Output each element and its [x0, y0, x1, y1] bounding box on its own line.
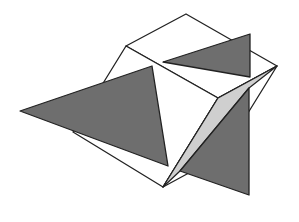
- diagram-canvas: [0, 0, 299, 222]
- left-triangle: [20, 66, 168, 166]
- cube-triangles-diagram: [0, 0, 299, 222]
